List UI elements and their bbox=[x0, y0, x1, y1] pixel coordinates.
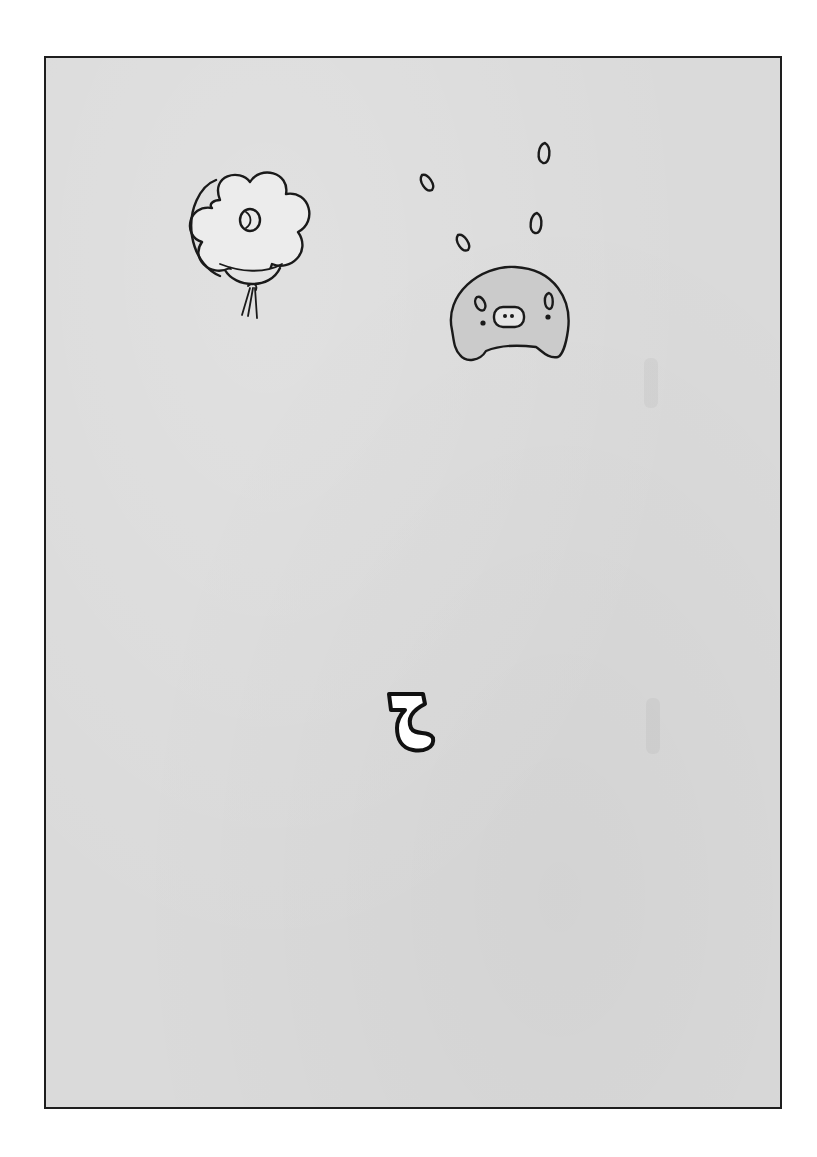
zeta-glyph-icon bbox=[383, 686, 443, 756]
sweat-drops-icon bbox=[410, 135, 570, 255]
scan-smudge bbox=[646, 698, 660, 754]
flower-balloon-icon bbox=[180, 160, 330, 330]
blob-creature-icon bbox=[440, 255, 580, 375]
scan-smudge bbox=[644, 358, 658, 408]
